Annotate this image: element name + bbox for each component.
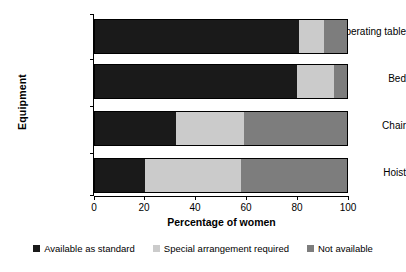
x-axis-tick-3	[246, 196, 247, 200]
x-axis-tick-label-2: 40	[175, 202, 215, 213]
legend-swatch-icon	[33, 245, 40, 252]
x-axis-tick-2	[195, 196, 196, 200]
bar-segment-not-available	[241, 159, 347, 192]
legend-item-available-as-standard: Available as standard	[33, 243, 135, 254]
x-axis-tick-5	[348, 196, 349, 200]
plot-area	[94, 14, 348, 196]
legend-item-not-available: Not available	[307, 243, 373, 254]
x-axis-tick-label-4: 80	[277, 202, 317, 213]
legend: Available as standard Special arrangemen…	[0, 240, 406, 256]
x-axis-tick-4	[297, 196, 298, 200]
bar-segment-not-available	[244, 112, 347, 145]
x-axis-line	[94, 196, 349, 197]
stacked-bar-chart: Equipment Operating table Bed Chair Hois…	[0, 0, 406, 272]
x-axis-tick-label-3: 60	[226, 202, 266, 213]
y-axis-title: Equipment	[16, 42, 28, 162]
legend-label: Special arrangement required	[164, 243, 289, 254]
legend-swatch-icon	[307, 245, 314, 252]
x-axis-tick-label-0: 0	[74, 202, 114, 213]
bar-segment-available-as-standard	[95, 20, 299, 53]
x-axis-tick-1	[144, 196, 145, 200]
x-axis-tick-label-5: 100	[328, 202, 368, 213]
legend-label: Not available	[318, 243, 373, 254]
bar-hoist	[94, 158, 348, 193]
y-axis-tick-2	[90, 106, 94, 107]
bar-segment-not-available	[324, 20, 347, 53]
bar-segment-special-arrangement-required	[297, 65, 335, 98]
y-axis-tick-1	[90, 59, 94, 60]
bar-segment-available-as-standard	[95, 159, 145, 192]
bar-segment-available-as-standard	[95, 65, 297, 98]
bar-segment-available-as-standard	[95, 112, 176, 145]
legend-label: Available as standard	[44, 243, 135, 254]
bar-chair	[94, 111, 348, 146]
y-axis-tick-3	[90, 153, 94, 154]
y-axis-tick-0	[90, 14, 94, 15]
bar-segment-special-arrangement-required	[145, 159, 241, 192]
legend-swatch-icon	[153, 245, 160, 252]
legend-item-special-arrangement-required: Special arrangement required	[153, 243, 289, 254]
bar-bed	[94, 64, 348, 99]
bar-operating-table	[94, 19, 348, 54]
x-axis-tick-0	[94, 196, 95, 200]
bar-segment-not-available	[334, 65, 347, 98]
x-axis-tick-label-1: 20	[124, 202, 164, 213]
x-axis-title: Percentage of women	[94, 216, 349, 228]
bar-segment-special-arrangement-required	[176, 112, 244, 145]
bar-segment-special-arrangement-required	[299, 20, 324, 53]
